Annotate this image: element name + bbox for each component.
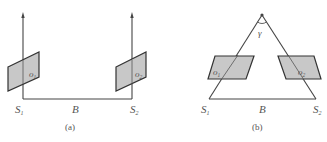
- angle-label-gamma: γ: [258, 28, 262, 38]
- camera-label-s2-a: S2: [130, 103, 139, 116]
- panel-a: [8, 12, 146, 99]
- camera-label-s1-b: S1: [201, 103, 210, 116]
- arrow-up-icon: [21, 12, 24, 18]
- camera-label-s1-a: S1: [15, 103, 24, 116]
- caption-b: (b): [252, 122, 263, 132]
- panel-b: [208, 13, 321, 99]
- baseline-label-a: B: [72, 103, 79, 115]
- arrow-up-icon: [130, 12, 133, 18]
- figure-canvas: o1 o2 S1 B S2 (a) γ o1 o2 S1 B S2 (b): [0, 0, 327, 142]
- angle-arc-icon: [258, 22, 267, 23]
- camera-label-s2-b: S2: [313, 103, 322, 116]
- image-plane-right-a: [116, 52, 146, 91]
- convergence-point: [260, 13, 263, 16]
- baseline-label-b: B: [259, 103, 266, 115]
- caption-a: (a): [65, 122, 75, 132]
- stereo-camera-figure: o1 o2 S1 B S2 (a) γ o1 o2 S1 B S2 (b): [0, 0, 327, 142]
